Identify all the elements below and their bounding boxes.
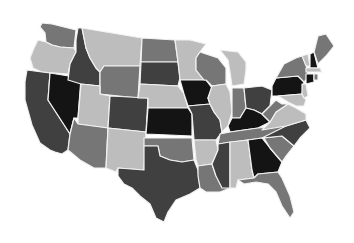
states-layer <box>25 23 334 222</box>
state-ri <box>314 74 318 80</box>
us-choropleth-map <box>0 0 354 243</box>
state-me <box>314 34 334 64</box>
state-co <box>108 96 148 132</box>
state-fl <box>238 172 294 218</box>
state-ma <box>306 68 322 72</box>
state-nm <box>106 128 146 172</box>
state-ks <box>146 108 192 136</box>
state-wy <box>100 66 140 98</box>
state-sd <box>140 62 180 86</box>
state-pa <box>272 76 304 96</box>
state-nd <box>141 38 178 62</box>
state-ct <box>306 74 314 84</box>
state-nj <box>302 84 308 98</box>
